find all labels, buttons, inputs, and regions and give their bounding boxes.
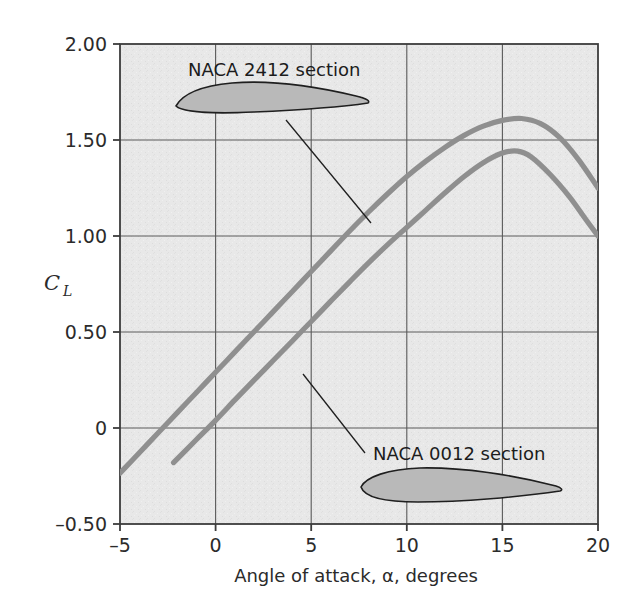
x-tick-label: 0 bbox=[210, 534, 222, 556]
x-tick-label: 10 bbox=[395, 534, 419, 556]
x-axis-ticks bbox=[120, 524, 598, 531]
x-axis-title: Angle of attack, α, degrees bbox=[234, 565, 478, 586]
y-axis-title-text: C bbox=[44, 271, 60, 295]
y-tick-label: 1.00 bbox=[65, 225, 107, 247]
x-tick-labels: –5 0 5 10 15 20 bbox=[109, 534, 610, 556]
x-tick-label: 20 bbox=[586, 534, 610, 556]
y-tick-label: 0 bbox=[95, 417, 107, 439]
y-tick-label: –0.50 bbox=[55, 513, 107, 535]
x-tick-label: 15 bbox=[490, 534, 514, 556]
x-tick-label: 5 bbox=[305, 534, 317, 556]
y-tick-label: 2.00 bbox=[65, 33, 107, 55]
y-axis-title-subscript: L bbox=[62, 283, 72, 299]
lift-coefficient-chart: 2.00 1.50 1.00 0.50 0 –0.50 –5 0 5 10 15… bbox=[0, 0, 636, 608]
y-axis-ticks bbox=[113, 44, 120, 524]
x-tick-label: –5 bbox=[109, 534, 131, 556]
y-tick-label: 0.50 bbox=[65, 321, 107, 343]
figure-container: 2.00 1.50 1.00 0.50 0 –0.50 –5 0 5 10 15… bbox=[0, 0, 636, 608]
y-axis-title: C L bbox=[44, 271, 72, 299]
annotation-label-2412: NACA 2412 section bbox=[188, 59, 360, 80]
y-tick-label: 1.50 bbox=[65, 129, 107, 151]
annotation-label-0012: NACA 0012 section bbox=[373, 443, 545, 464]
